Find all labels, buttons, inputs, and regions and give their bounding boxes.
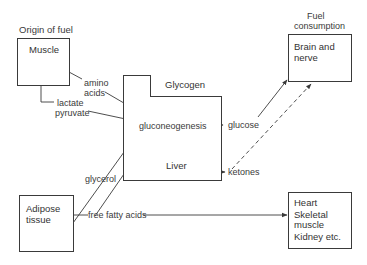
adipose-label-line1: Adipose <box>26 203 60 214</box>
adipose-label-line2: tissue <box>26 214 51 225</box>
fuel-consumption-heading-line1: Fuel <box>307 11 325 22</box>
liver-label: Liver <box>166 160 187 171</box>
pyruvate-label: pyruvate <box>55 108 90 119</box>
brain-label-line1: Brain and <box>294 41 335 52</box>
glucose-label: glucose <box>228 120 259 131</box>
liver-box: Glycogen gluconeogenesis Liver <box>123 75 222 181</box>
amino-label-line2: acids <box>84 88 105 99</box>
gluconeogenesis-label: gluconeogenesis <box>139 121 207 132</box>
muscle-amino-connector <box>69 72 82 79</box>
muscle-label: Muscle <box>29 44 59 55</box>
muscle-box: Muscle <box>17 38 70 86</box>
glycogen-label: Glycogen <box>165 79 205 90</box>
ketones-label: ketones <box>228 167 260 178</box>
brain-label-line2: nerve <box>294 52 318 63</box>
fuel-consumption-heading-line2: consumption <box>294 21 345 32</box>
heart-label: Heart <box>294 197 317 208</box>
lactate-label: lactate <box>57 98 84 109</box>
muscle-consumer-label: muscle <box>294 219 324 230</box>
glycogen-box: Glycogen <box>150 75 222 97</box>
brain-nerve-box: Brain and nerve <box>288 34 352 82</box>
origin-of-fuel-heading: Origin of fuel <box>19 25 73 36</box>
free-fatty-acids-label: free fatty acids <box>88 210 147 221</box>
adipose-tissue-box: Adipose tissue <box>19 195 74 252</box>
kidney-label: Kidney etc. <box>294 231 341 242</box>
amino-label-line1: amino <box>84 78 109 89</box>
muscle-lactate-connector <box>41 85 54 102</box>
glycerol-label: glycerol <box>85 174 116 185</box>
glucose-brain-arrow <box>258 80 287 117</box>
heart-muscle-kidney-box: Heart Skeletal muscle Kidney etc. <box>288 192 352 249</box>
